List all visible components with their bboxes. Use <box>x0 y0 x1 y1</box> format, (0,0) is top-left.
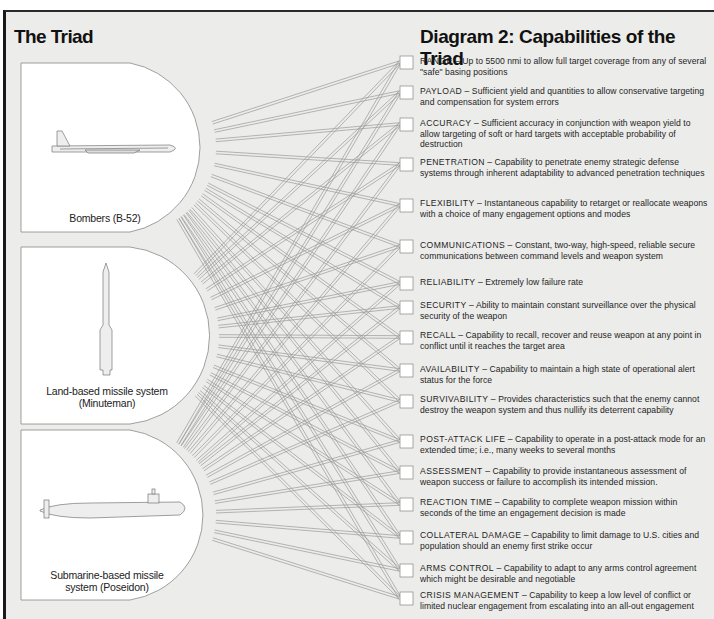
capability-name: COLLATERAL DAMAGE <box>420 530 521 540</box>
capability-dash: – <box>462 86 472 96</box>
capability-dash: – <box>471 118 481 128</box>
capability-name: ACCURACY <box>420 118 471 128</box>
capability-checkbox <box>400 301 413 314</box>
capability-name: ASSESSMENT <box>420 466 483 476</box>
capability-checkbox <box>400 158 413 171</box>
capability-dash: – <box>475 198 485 208</box>
capability-dash: – <box>488 394 498 404</box>
capability-dash: – <box>519 590 529 600</box>
capability-name: AVAILABILITY <box>420 364 480 374</box>
capability-dash: – <box>505 434 515 444</box>
capability-checkbox <box>400 531 413 544</box>
capability-checkbox <box>400 277 413 290</box>
capability-dash: – <box>467 300 476 310</box>
sub-label-line2: system (Poseidon) <box>22 581 192 593</box>
capability-checkbox <box>400 331 413 344</box>
capability-dash: – <box>480 364 490 374</box>
capability-checkboxes <box>400 56 413 605</box>
capability-item-post-attack-life: POST-ATTACK LIFE – Capability to operate… <box>420 434 710 455</box>
capability-name: SURVIVABILITY <box>420 394 488 404</box>
capability-name: CRISIS MANAGEMENT <box>420 590 519 600</box>
capability-item-accuracy: ACCURACY – Sufficient accuracy in conjun… <box>420 118 710 150</box>
capability-item-penetration: PENETRATION – Capability to penetrate en… <box>420 157 710 178</box>
capability-checkbox <box>400 86 413 99</box>
capability-item-assessment: ASSESSMENT – Capability to provide insta… <box>420 466 710 487</box>
capability-checkbox <box>400 435 413 448</box>
capability-name: RANGE <box>420 56 453 66</box>
capability-description: Up to 5500 nmi to allow full target cove… <box>420 56 706 77</box>
capability-checkbox <box>400 564 413 577</box>
capability-dash: – <box>483 466 493 476</box>
capability-item-flexibility: FLEXIBILITY – Instantaneous capability t… <box>420 198 710 219</box>
capability-checkbox <box>400 592 413 605</box>
capability-item-survivability: SURVIVABILITY – Provides characteristics… <box>420 394 710 415</box>
capability-dash: – <box>492 497 502 507</box>
capability-checkbox <box>400 240 413 253</box>
capability-name: ARMS CONTROL <box>420 563 494 573</box>
capability-item-collateral-damage: COLLATERAL DAMAGE – Capability to limit … <box>420 530 710 551</box>
capability-dash: – <box>453 56 463 66</box>
capability-name: RELIABILITY <box>420 277 476 287</box>
capability-name: POST-ATTACK LIFE <box>420 434 505 444</box>
capability-checkbox <box>400 56 413 69</box>
capability-item-reliability: RELIABILITY – Extremely low failure rate <box>420 277 710 288</box>
capability-name: REACTION TIME <box>420 497 492 507</box>
capability-checkbox <box>400 395 413 408</box>
capability-dash: – <box>505 240 515 250</box>
capability-dash: – <box>494 563 504 573</box>
capability-name: PENETRATION <box>420 157 485 167</box>
capability-description: Extremely low failure rate <box>485 277 583 287</box>
capability-dash: – <box>521 530 531 540</box>
capability-item-communications: COMMUNICATIONS – Constant, two-way, high… <box>420 240 710 261</box>
capability-name: RECALL <box>420 330 456 340</box>
capability-item-crisis-management: CRISIS MANAGEMENT – Capability to keep a… <box>420 590 710 611</box>
capability-checkbox <box>400 364 413 377</box>
capability-checkbox <box>400 118 413 131</box>
capability-checkbox <box>400 199 413 212</box>
land-label-line2: (Minuteman) <box>22 397 192 409</box>
capability-item-arms-control: ARMS CONTROL – Capability to adapt to an… <box>420 563 710 584</box>
capability-name: PAYLOAD <box>420 86 462 96</box>
sub-label-line1: Submarine-based missile <box>22 569 192 581</box>
capability-item-range: RANGE – Up to 5500 nmi to allow full tar… <box>420 56 710 77</box>
land-label-line1: Land-based missile system <box>22 385 192 397</box>
capability-name: SECURITY <box>420 300 467 310</box>
capability-checkbox <box>400 498 413 511</box>
capability-name: COMMUNICATIONS <box>420 240 505 250</box>
capability-dash: – <box>476 277 486 287</box>
bombers-label: Bombers (B-52) <box>45 212 165 224</box>
capability-item-payload: PAYLOAD – Sufficient yield and quantitie… <box>420 86 710 107</box>
capability-item-security: SECURITY – Ability to maintain constant … <box>420 300 710 321</box>
capability-name: FLEXIBILITY <box>420 198 475 208</box>
capability-checkbox <box>400 466 413 479</box>
capability-item-reaction-time: REACTION TIME – Capability to complete w… <box>420 497 710 518</box>
capability-item-availability: AVAILABILITY – Capability to maintain a … <box>420 364 710 385</box>
capability-dash: – <box>485 157 495 167</box>
capability-dash: – <box>456 330 466 340</box>
land-missile-label: Land-based missile system (Minuteman) <box>22 385 192 409</box>
sub-missile-label: Submarine-based missile system (Poseidon… <box>22 569 192 593</box>
capability-item-recall: RECALL – Capability to recall, recover a… <box>420 330 710 351</box>
